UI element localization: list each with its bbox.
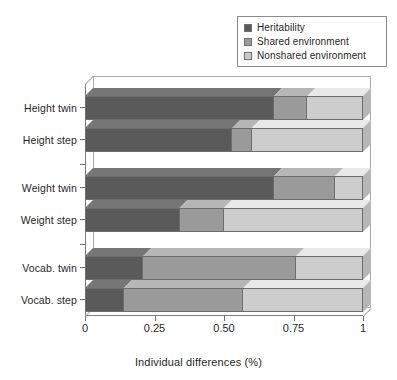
bar-row-weight-step: Weight step — [85, 208, 363, 232]
y-axis-label-vocab-step: Vocab. step — [0, 288, 85, 312]
bar-segment-top-face-heritability — [85, 280, 132, 288]
bar-segment-shared-environment — [274, 176, 335, 200]
legend-item-shared-environment: Shared environment — [244, 35, 381, 48]
chart-legend: Heritability Shared environment Nonshare… — [237, 16, 387, 67]
plot-area: Height twinHeight stepWeight twinWeight … — [85, 84, 363, 316]
bar-segment-heritability — [85, 128, 232, 152]
bar-segment-heritability — [85, 256, 143, 280]
legend-label-shared-environment: Shared environment — [257, 36, 349, 47]
legend-swatch-nonshared-environment — [244, 52, 252, 60]
bar-segment-top-face-heritability — [85, 200, 188, 208]
bar-segment-top-face-shared-environment — [124, 280, 252, 288]
legend-swatch-heritability — [244, 24, 252, 32]
x-axis-tick-4 — [363, 316, 364, 321]
x-axis-tick-label-1: 0.25 — [144, 322, 165, 335]
bar-row-height-twin: Height twin — [85, 96, 363, 120]
y-axis-label-height-step: Height step — [0, 128, 85, 152]
x-axis-tick-1 — [155, 316, 156, 321]
bar-segment-nonshared-environment — [224, 208, 363, 232]
bar-segment-top-face-shared-environment — [180, 200, 232, 208]
y-axis-label-weight-step: Weight step — [0, 208, 85, 232]
bar-segment-top-face-heritability — [85, 88, 282, 96]
x-axis-tick-3 — [294, 316, 295, 321]
bar-segment-shared-environment — [180, 208, 224, 232]
bar-segment-heritability — [85, 176, 274, 200]
x-axis-tick-label-4: 1 — [360, 322, 366, 335]
bar-row-vocab-twin: Vocab. twin — [85, 256, 363, 280]
y-axis-group-tick-2 — [80, 244, 85, 245]
bar-segment-nonshared-environment — [252, 128, 363, 152]
bar-segment-shared-environment — [124, 288, 244, 312]
bar-segment-top-face-nonshared-environment — [224, 200, 371, 208]
bar-segment-top-face-shared-environment — [143, 248, 304, 256]
x-axis-title: Individual differences (%) — [0, 356, 397, 368]
legend-item-nonshared-environment: Nonshared environment — [244, 49, 381, 62]
bar-segment-top-face-heritability — [85, 248, 151, 256]
x-axis-tick-label-0: 0 — [82, 322, 88, 335]
bar-segment-heritability — [85, 288, 124, 312]
x-axis-tick-2 — [224, 316, 225, 321]
bar-row-vocab-step: Vocab. step — [85, 288, 363, 312]
legend-item-heritability: Heritability — [244, 21, 381, 34]
x-axis-tick-label-2: 0.50 — [213, 322, 234, 335]
bar-segment-shared-environment — [143, 256, 296, 280]
bar-segment-top-face-nonshared-environment — [243, 280, 371, 288]
bar-segment-top-face-nonshared-environment — [296, 248, 371, 256]
bar-segment-top-face-nonshared-environment — [307, 88, 371, 96]
bar-stack — [85, 288, 363, 312]
bar-segment-top-face-heritability — [85, 120, 240, 128]
bar-stack — [85, 208, 363, 232]
bar-segment-top-face-shared-environment — [274, 168, 343, 176]
bar-segment-top-face-nonshared-environment — [252, 120, 371, 128]
y-axis-label-height-twin: Height twin — [0, 96, 85, 120]
bar-segment-nonshared-environment — [296, 256, 363, 280]
bar-segment-nonshared-environment — [307, 96, 363, 120]
legend-swatch-shared-environment — [244, 38, 252, 46]
bar-segment-heritability — [85, 208, 180, 232]
legend-label-heritability: Heritability — [257, 22, 305, 33]
y-axis-label-vocab-twin: Vocab. twin — [0, 256, 85, 280]
bar-segment-shared-environment — [232, 128, 251, 152]
y-axis-group-tick-1 — [80, 164, 85, 165]
bar-stack — [85, 256, 363, 280]
bar-segment-nonshared-environment — [335, 176, 363, 200]
y-axis-label-weight-twin: Weight twin — [0, 176, 85, 200]
legend-label-nonshared-environment: Nonshared environment — [257, 50, 366, 61]
bar-segment-top-face-heritability — [85, 168, 282, 176]
bar-segment-heritability — [85, 96, 274, 120]
bar-stack — [85, 128, 363, 152]
x-axis-tick-label-3: 0.75 — [283, 322, 304, 335]
x-axis-tick-0 — [85, 316, 86, 321]
bar-stack — [85, 96, 363, 120]
chart-figure: Heritability Shared environment Nonshare… — [0, 0, 397, 380]
bar-segment-shared-environment — [274, 96, 307, 120]
bar-stack — [85, 176, 363, 200]
bar-segment-nonshared-environment — [243, 288, 363, 312]
bar-row-weight-twin: Weight twin — [85, 176, 363, 200]
bar-row-height-step: Height step — [85, 128, 363, 152]
